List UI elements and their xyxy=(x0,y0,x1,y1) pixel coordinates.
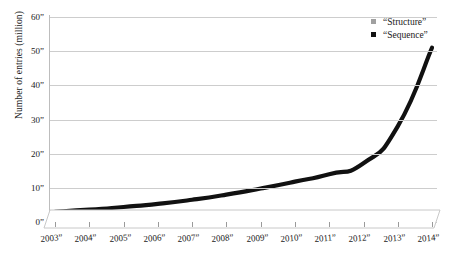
x-axis-tick-labels: 2003”2004”2005”2006”2007”2008”2009”2010”… xyxy=(0,231,457,255)
x-axis-tick xyxy=(158,222,159,227)
x-axis-tick-label: 2011” xyxy=(314,232,336,244)
gridline xyxy=(50,120,437,121)
x-axis-tick xyxy=(398,222,399,227)
x-axis-tick-label: 2006” xyxy=(143,232,166,244)
y-axis-tick-label: 30” xyxy=(8,115,44,125)
square-marker-icon xyxy=(371,19,376,24)
x-axis-tick xyxy=(261,222,262,227)
x-axis-tick-label: 2003” xyxy=(40,232,63,244)
legend-item-label: “Structure” xyxy=(383,17,426,27)
gridline xyxy=(50,85,437,86)
x-axis-tick xyxy=(295,222,296,227)
x-axis-tick-label: 2013” xyxy=(383,232,406,244)
x-axis-tick xyxy=(124,222,125,227)
x-axis-tick-label: 2008” xyxy=(211,232,234,244)
x-axis-tick-label: 2007” xyxy=(177,232,200,244)
gridline xyxy=(50,154,437,155)
y-axis-tick-label: 10” xyxy=(8,183,44,193)
gridline xyxy=(50,188,437,189)
y-axis-tick-label: 0” xyxy=(8,217,44,227)
x-axis-tick xyxy=(55,222,56,227)
x-axis-tick-label: 2012” xyxy=(348,232,371,244)
x-axis-tick-label: 2004” xyxy=(74,232,97,244)
x-axis-tick-marks xyxy=(50,222,437,227)
x-axis-tick xyxy=(432,222,433,227)
y-axis-tick-label: 40” xyxy=(8,80,44,90)
gridline xyxy=(50,51,437,52)
x-axis-tick-label: 2014” xyxy=(417,232,440,244)
x-axis-tick-label: 2009” xyxy=(246,232,269,244)
chart-legend: “Structure”“Sequence” xyxy=(371,15,457,41)
chart-container: Number of entries (million) 0”10”20”30”4… xyxy=(0,0,457,257)
y-axis-tick-label: 50” xyxy=(8,46,44,56)
plot-area xyxy=(50,17,437,222)
x-axis-tick xyxy=(329,222,330,227)
x-axis-tick xyxy=(89,222,90,227)
x-axis-tick xyxy=(192,222,193,227)
legend-item-label: “Sequence” xyxy=(383,30,428,40)
y-axis-tick-label: 20” xyxy=(8,149,44,159)
legend-item[interactable]: “Structure” xyxy=(371,15,457,28)
x-axis-tick xyxy=(226,222,227,227)
y-axis-tick-labels: 0”10”20”30”40”50”60” xyxy=(0,17,44,222)
y-axis-tick-label: 60” xyxy=(8,12,44,22)
square-marker-icon xyxy=(371,32,376,37)
x-axis-tick-label: 2010” xyxy=(280,232,303,244)
legend-item[interactable]: “Sequence” xyxy=(371,28,457,41)
x-axis-tick-label: 2005” xyxy=(109,232,132,244)
x-axis-tick xyxy=(364,222,365,227)
